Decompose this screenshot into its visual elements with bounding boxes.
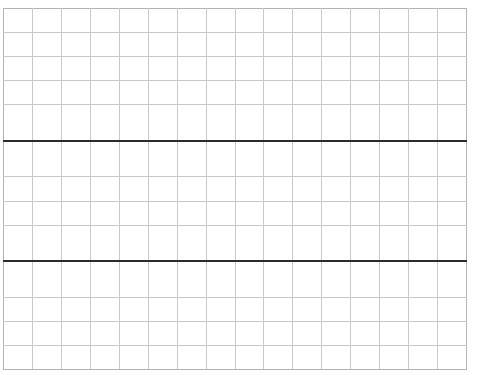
- grid-cell[interactable]: [264, 201, 293, 225]
- table-row[interactable]: [4, 345, 467, 369]
- grid-cell[interactable]: [322, 177, 351, 201]
- grid-cell[interactable]: [380, 9, 409, 33]
- grid-cell[interactable]: [4, 321, 33, 345]
- grid-cell[interactable]: [438, 297, 467, 321]
- grid-cell[interactable]: [351, 9, 380, 33]
- grid-cell[interactable]: [351, 297, 380, 321]
- grid-cell[interactable]: [438, 345, 467, 369]
- grid-cell[interactable]: [235, 141, 264, 177]
- grid-cell[interactable]: [4, 225, 33, 261]
- grid-cell[interactable]: [206, 9, 235, 33]
- grid-cell[interactable]: [32, 321, 61, 345]
- grid-cell[interactable]: [90, 33, 119, 57]
- grid-cell[interactable]: [380, 297, 409, 321]
- grid-cell[interactable]: [4, 57, 33, 81]
- grid-cell[interactable]: [148, 33, 177, 57]
- grid-cell[interactable]: [380, 33, 409, 57]
- grid-cell[interactable]: [32, 141, 61, 177]
- grid-cell[interactable]: [438, 261, 467, 297]
- grid-cell[interactable]: [206, 345, 235, 369]
- grid-cell[interactable]: [380, 57, 409, 81]
- grid-cell[interactable]: [4, 261, 33, 297]
- grid-cell[interactable]: [380, 177, 409, 201]
- grid-cell[interactable]: [409, 321, 438, 345]
- grid-cell[interactable]: [322, 225, 351, 261]
- grid-cell[interactable]: [322, 297, 351, 321]
- grid-cell[interactable]: [438, 57, 467, 81]
- grid-cell[interactable]: [409, 9, 438, 33]
- grid-cell[interactable]: [264, 261, 293, 297]
- grid-cell[interactable]: [438, 81, 467, 105]
- grid-cell[interactable]: [90, 9, 119, 33]
- grid-cell[interactable]: [4, 141, 33, 177]
- grid-cell[interactable]: [293, 201, 322, 225]
- grid-cell[interactable]: [380, 261, 409, 297]
- grid-cell[interactable]: [351, 141, 380, 177]
- grid-cell[interactable]: [322, 201, 351, 225]
- table-row[interactable]: [4, 261, 467, 297]
- grid-cell[interactable]: [235, 9, 264, 33]
- grid-cell[interactable]: [148, 141, 177, 177]
- grid-cell[interactable]: [119, 81, 148, 105]
- grid-cell[interactable]: [206, 105, 235, 141]
- grid-cell[interactable]: [148, 57, 177, 81]
- grid-cell[interactable]: [235, 345, 264, 369]
- grid-cell[interactable]: [119, 345, 148, 369]
- grid-cell[interactable]: [293, 57, 322, 81]
- grid-cell[interactable]: [119, 33, 148, 57]
- grid-cell[interactable]: [322, 105, 351, 141]
- grid-cell[interactable]: [322, 141, 351, 177]
- grid-cell[interactable]: [206, 177, 235, 201]
- grid-cell[interactable]: [177, 225, 206, 261]
- grid-cell[interactable]: [148, 81, 177, 105]
- grid-cell[interactable]: [90, 105, 119, 141]
- grid-cell[interactable]: [177, 261, 206, 297]
- grid-cell[interactable]: [61, 321, 90, 345]
- grid-cell[interactable]: [90, 141, 119, 177]
- grid-cell[interactable]: [119, 225, 148, 261]
- grid-cell[interactable]: [177, 141, 206, 177]
- grid-cell[interactable]: [409, 105, 438, 141]
- grid-cell[interactable]: [32, 81, 61, 105]
- grid-cell[interactable]: [409, 177, 438, 201]
- blank-grid-table[interactable]: [3, 8, 467, 370]
- grid-cell[interactable]: [293, 177, 322, 201]
- grid-cell[interactable]: [264, 81, 293, 105]
- grid-cell[interactable]: [148, 345, 177, 369]
- grid-cell[interactable]: [119, 177, 148, 201]
- grid-cell[interactable]: [90, 297, 119, 321]
- grid-cell[interactable]: [322, 57, 351, 81]
- grid-cell[interactable]: [32, 261, 61, 297]
- grid-cell[interactable]: [61, 225, 90, 261]
- grid-cell[interactable]: [4, 201, 33, 225]
- grid-cell[interactable]: [119, 141, 148, 177]
- grid-cell[interactable]: [293, 321, 322, 345]
- grid-cell[interactable]: [32, 297, 61, 321]
- grid-cell[interactable]: [119, 57, 148, 81]
- grid-cell[interactable]: [351, 225, 380, 261]
- grid-cell[interactable]: [235, 321, 264, 345]
- grid-cell[interactable]: [148, 9, 177, 33]
- grid-cell[interactable]: [61, 177, 90, 201]
- grid-cell[interactable]: [206, 81, 235, 105]
- table-row[interactable]: [4, 105, 467, 141]
- grid-cell[interactable]: [438, 225, 467, 261]
- table-row[interactable]: [4, 33, 467, 57]
- table-row[interactable]: [4, 321, 467, 345]
- grid-cell[interactable]: [409, 81, 438, 105]
- grid-cell[interactable]: [206, 261, 235, 297]
- grid-cell[interactable]: [4, 105, 33, 141]
- grid-cell[interactable]: [322, 345, 351, 369]
- grid-cell[interactable]: [90, 321, 119, 345]
- grid-cell[interactable]: [235, 225, 264, 261]
- grid-cell[interactable]: [4, 297, 33, 321]
- grid-cell[interactable]: [4, 81, 33, 105]
- grid-cell[interactable]: [32, 9, 61, 33]
- grid-cell[interactable]: [322, 81, 351, 105]
- grid-cell[interactable]: [32, 33, 61, 57]
- grid-cell[interactable]: [438, 177, 467, 201]
- grid-cell[interactable]: [293, 345, 322, 369]
- grid-cell[interactable]: [351, 345, 380, 369]
- grid-cell[interactable]: [293, 225, 322, 261]
- grid-cell[interactable]: [4, 345, 33, 369]
